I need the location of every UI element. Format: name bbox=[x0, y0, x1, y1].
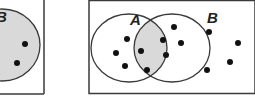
dot bbox=[178, 40, 184, 46]
dot bbox=[160, 37, 166, 43]
set-b-label: B bbox=[207, 9, 218, 26]
dot bbox=[113, 50, 119, 56]
dot bbox=[171, 24, 177, 30]
dot bbox=[14, 60, 20, 66]
right-venn-panel: A B bbox=[89, 1, 255, 94]
left-venn-panel: B bbox=[0, 0, 44, 94]
dot bbox=[163, 52, 169, 58]
set-a-label: A bbox=[129, 11, 141, 28]
dot bbox=[227, 59, 233, 65]
dot bbox=[235, 40, 241, 46]
dot bbox=[122, 63, 128, 69]
dot bbox=[204, 67, 210, 73]
dot bbox=[144, 67, 150, 73]
dot bbox=[124, 36, 130, 42]
venn-diagrams: B A B bbox=[0, 0, 255, 98]
left-set-b-label: B bbox=[0, 8, 7, 25]
dot bbox=[138, 48, 144, 54]
dot bbox=[206, 29, 212, 35]
dot bbox=[22, 41, 28, 47]
